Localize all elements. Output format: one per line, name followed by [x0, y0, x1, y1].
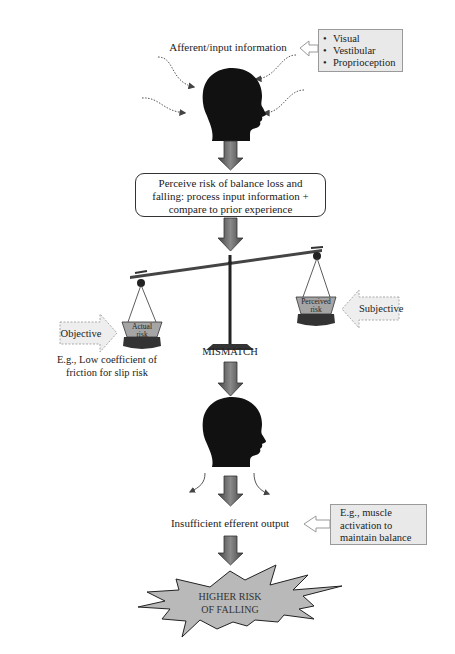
input-label: Afferent/input information [158, 41, 298, 54]
process-line-3: compare to prior experience [136, 203, 325, 216]
down-arrow-1 [218, 141, 243, 170]
objective-example-line-1: E.g., Low coefficient of [42, 353, 172, 366]
objective-label: Objective [60, 327, 102, 340]
sensory-input-vestibular: Vestibular [333, 45, 402, 57]
objective-example: E.g., Low coefficient of friction for sl… [42, 353, 172, 379]
perceived-risk-label: Perceived risk [294, 298, 338, 314]
sensory-input-visual: Visual [333, 33, 402, 45]
output-example-line-2: activation to [340, 520, 426, 533]
outcome-line-2: OF FALLING [180, 603, 280, 616]
down-arrow-2 [218, 218, 243, 251]
outcome-line-1: HIGHER RISK [180, 590, 280, 603]
down-arrow-5 [218, 536, 243, 565]
perceived-risk-line-2: risk [294, 306, 338, 314]
output-example-box: E.g., muscle activation to maintain bala… [330, 504, 427, 545]
subjective-label: Subjective [359, 302, 401, 315]
output-example-line-1: E.g., muscle [340, 507, 426, 520]
mismatch-label: MISMATCH [190, 345, 270, 358]
head-silhouette-icon [203, 397, 266, 467]
output-label: Insufficient efferent output [160, 517, 300, 530]
actual-risk-label: Actual risk [122, 323, 162, 339]
outcome-label: HIGHER RISK OF FALLING [180, 590, 280, 616]
info-box-pointer-arrow [300, 41, 318, 56]
process-line-2: falling: process input information + [136, 190, 325, 203]
down-arrow-4 [218, 476, 243, 506]
sensory-input-proprioception: Proprioception [333, 57, 402, 69]
actual-risk-line-2: risk [122, 331, 162, 339]
sensory-inputs-box: Visual Vestibular Proprioception [318, 29, 403, 72]
head-silhouette-icon [203, 68, 266, 141]
process-line-1: Perceive risk of balance loss and [136, 177, 325, 190]
process-box: Perceive risk of balance loss and fallin… [135, 173, 326, 217]
output-example-pointer-arrow [304, 516, 330, 532]
output-example-line-3: maintain balance [340, 532, 426, 545]
objective-example-line-2: friction for slip risk [42, 366, 172, 379]
down-arrow-3 [218, 362, 243, 396]
